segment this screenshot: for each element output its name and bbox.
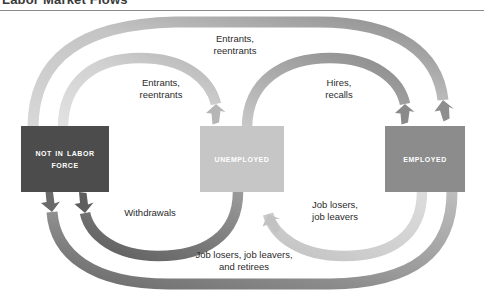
- edge-label-line: reentrants: [116, 89, 206, 101]
- node-not-in-labor-force[interactable]: Not in Labor Force: [21, 126, 109, 192]
- edge-label-entrants-reentrants-to-unemployed: Entrants, reentrants: [116, 77, 206, 100]
- edge-label-withdrawals: Withdrawals: [104, 207, 196, 219]
- edge-label-entrants-reentrants-to-employed: Entrants, reentrants: [190, 33, 280, 56]
- flow-withdrawals: [75, 192, 239, 256]
- node-unemployed-label: Unemployed: [215, 153, 270, 165]
- edge-label-line: job leavers: [290, 211, 380, 223]
- edge-label-line: Entrants,: [190, 33, 280, 45]
- edge-label-job-losers-job-leavers: Job losers, job leavers: [290, 199, 380, 222]
- edge-label-line: Hires,: [304, 77, 374, 89]
- edge-label-line: recalls: [304, 89, 374, 101]
- figure-canvas: Labor Market Flows: [0, 0, 484, 303]
- node-employed-label: Employed: [403, 153, 447, 165]
- node-employed[interactable]: Employed: [385, 126, 465, 192]
- edge-label-line: Withdrawals: [104, 207, 196, 219]
- edge-label-line: Job losers,: [290, 199, 380, 211]
- edge-label-line: reentrants: [190, 45, 280, 57]
- node-not-in-labor-force-label: Not in Labor Force: [21, 147, 109, 171]
- edge-label-line: and retirees: [164, 261, 324, 273]
- node-unemployed[interactable]: Unemployed: [200, 126, 284, 192]
- edge-label-line: Job losers, job leavers,: [164, 249, 324, 261]
- edge-label-line: Entrants,: [116, 77, 206, 89]
- edge-label-job-losers-job-leavers-retirees: Job losers, job leavers, and retirees: [164, 249, 324, 272]
- edge-label-hires-recalls: Hires, recalls: [304, 77, 374, 100]
